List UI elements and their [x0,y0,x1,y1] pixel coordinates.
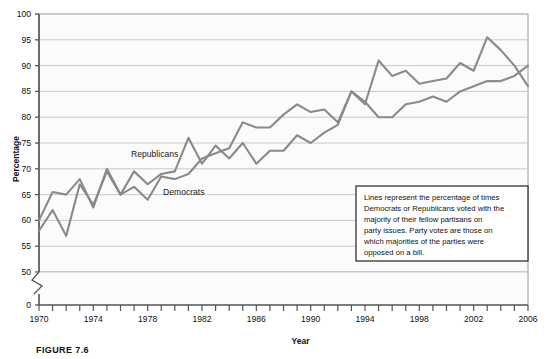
note-line: Democrats or Republicans voted with the [364,204,504,213]
svg-text:1978: 1978 [138,314,157,324]
note-line: Lines represent the percentage of times [364,193,500,202]
svg-text:50: 50 [21,267,31,277]
svg-text:2002: 2002 [464,314,483,324]
svg-text:55: 55 [21,241,31,251]
svg-text:65: 65 [21,190,31,200]
figure-caption: FIGURE 7.6 [36,345,89,355]
note-line: majority of their fellow partisans on [364,215,482,224]
svg-text:90: 90 [21,61,31,71]
figure-7-6: 050556065707580859095100 197019741978198… [0,0,553,359]
svg-text:1994: 1994 [355,314,374,324]
x-axis-title: Year [24,336,553,346]
line-chart: 050556065707580859095100 197019741978198… [0,0,553,325]
annotation-note: Lines represent the percentage of timesD… [356,186,528,261]
svg-text:70: 70 [21,164,31,174]
svg-text:2006: 2006 [518,314,537,324]
svg-text:1982: 1982 [192,314,211,324]
chart-area: 050556065707580859095100 197019741978198… [0,0,553,325]
svg-text:1990: 1990 [301,314,320,324]
note-line: party issues. Party votes are those on [364,226,493,235]
note-line: opposed on a bill. [364,248,424,257]
y-axis-title: Percentage [11,109,21,209]
svg-text:80: 80 [21,112,31,122]
svg-text:1974: 1974 [84,314,103,324]
series-label-republicans: Republicans [131,149,178,159]
note-line: which majorities of the parties were [363,237,484,246]
svg-text:1998: 1998 [410,314,429,324]
svg-text:1970: 1970 [29,314,48,324]
svg-text:60: 60 [21,215,31,225]
svg-text:85: 85 [21,86,31,96]
svg-text:75: 75 [21,138,31,148]
x-axis: 1970197419781982198619901994199820022006 [29,305,537,324]
svg-text:100: 100 [17,9,32,19]
svg-text:0: 0 [26,300,31,310]
svg-text:95: 95 [21,35,31,45]
y-axis-title-wrap: Percentage [0,112,17,212]
svg-text:1986: 1986 [247,314,266,324]
series-label-democrats: Democrats [163,187,205,197]
